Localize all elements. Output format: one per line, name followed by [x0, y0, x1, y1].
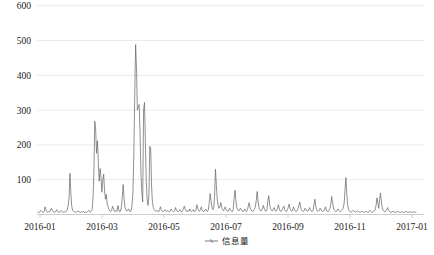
x-axis-tick-label: 2016-09 — [272, 222, 304, 232]
y-axis-tick-label: 400 — [17, 71, 32, 81]
x-axis-tick-label: 2016-01 — [24, 222, 56, 232]
gridlines-group — [37, 6, 424, 180]
legend-label: 信息量 — [222, 236, 249, 246]
y-axis-tick-label: 100 — [17, 175, 32, 185]
chart-container: 100200300400500600 2016-012016-032016-05… — [0, 0, 434, 255]
x-axis-tick-label: 2017-01 — [396, 222, 428, 232]
y-axis-tick-labels: 100200300400500600 — [17, 1, 32, 185]
y-axis-tick-label: 200 — [17, 140, 32, 150]
x-axis-tick-marks — [40, 215, 412, 219]
y-axis-tick-label: 600 — [17, 1, 32, 11]
x-axis-tick-label: 2016-11 — [334, 222, 366, 232]
y-axis-tick-label: 500 — [17, 36, 32, 46]
x-axis-tick-label: 2016-07 — [210, 222, 242, 232]
data-series-line — [38, 45, 416, 213]
legend: 信息量 — [205, 236, 249, 246]
y-axis-tick-label: 300 — [17, 106, 32, 116]
line-chart: 100200300400500600 2016-012016-032016-05… — [0, 0, 434, 255]
x-axis-tick-labels: 2016-012016-032016-052016-072016-092016-… — [24, 222, 428, 232]
x-axis-tick-label: 2016-03 — [86, 222, 118, 232]
x-axis-tick-label: 2016-05 — [148, 222, 180, 232]
